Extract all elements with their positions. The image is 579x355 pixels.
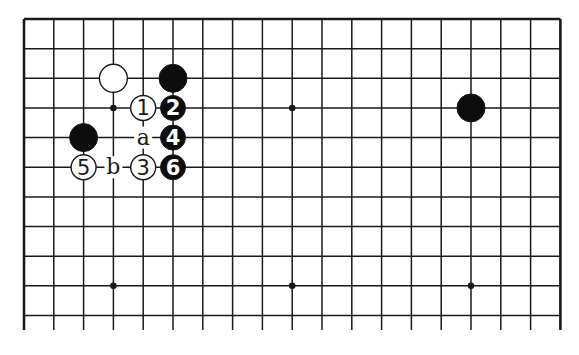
star-point-icon bbox=[110, 283, 117, 290]
black-stone bbox=[159, 64, 187, 92]
point-marker-a: a bbox=[137, 125, 150, 150]
move-number: 4 bbox=[166, 126, 181, 150]
move-number: 5 bbox=[77, 156, 90, 180]
black-stone bbox=[457, 94, 485, 122]
white-stone bbox=[99, 64, 127, 92]
star-point-icon bbox=[468, 283, 475, 290]
black-stone-2: 2 bbox=[161, 95, 186, 120]
move-number: 6 bbox=[166, 156, 181, 180]
stones: 123456 bbox=[70, 64, 485, 179]
star-point-icon bbox=[289, 283, 296, 290]
go-board: ab 123456 bbox=[0, 0, 579, 355]
black-stone-6: 6 bbox=[161, 155, 186, 180]
black-stone-4: 4 bbox=[161, 125, 186, 150]
white-stone-3: 3 bbox=[131, 155, 156, 180]
white-stone-1: 1 bbox=[131, 95, 156, 120]
star-point-icon bbox=[110, 105, 117, 112]
move-number: 2 bbox=[166, 96, 181, 120]
black-stone bbox=[70, 124, 98, 152]
star-point-icon bbox=[289, 105, 296, 112]
move-number: 3 bbox=[137, 156, 150, 180]
white-stone-5: 5 bbox=[71, 155, 96, 180]
stone-icon bbox=[99, 64, 127, 92]
stone-icon bbox=[159, 64, 187, 92]
point-marker-b: b bbox=[106, 154, 120, 179]
move-number: 1 bbox=[137, 96, 150, 120]
stone-icon bbox=[457, 94, 485, 122]
stone-icon bbox=[70, 124, 98, 152]
